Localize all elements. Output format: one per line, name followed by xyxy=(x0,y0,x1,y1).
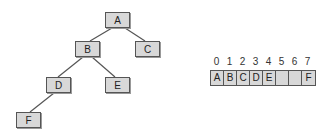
tree-node-a: A xyxy=(105,12,130,28)
array-representation: A B C D E F xyxy=(210,70,316,86)
array-cell: A xyxy=(211,71,224,85)
array-cell xyxy=(276,71,289,85)
array-cell xyxy=(289,71,302,85)
array-cell: F xyxy=(302,71,315,85)
array-index: 0 xyxy=(210,56,223,67)
array-index: 2 xyxy=(236,56,249,67)
array-cell: D xyxy=(250,71,263,85)
array-cell: C xyxy=(237,71,250,85)
array-index: 4 xyxy=(262,56,275,67)
tree-node-f: F xyxy=(16,112,41,128)
array-index: 7 xyxy=(301,56,314,67)
array-index: 3 xyxy=(249,56,262,67)
tree-node-b: B xyxy=(75,41,100,57)
array-cell: E xyxy=(263,71,276,85)
array-index: 6 xyxy=(288,56,301,67)
tree-node-c: C xyxy=(135,41,160,57)
tree-node-d: D xyxy=(46,77,71,93)
array-index: 5 xyxy=(275,56,288,67)
tree-node-e: E xyxy=(105,77,130,93)
array-indices: 0 1 2 3 4 5 6 7 xyxy=(210,56,314,67)
array-index: 1 xyxy=(223,56,236,67)
array-cell: B xyxy=(224,71,237,85)
